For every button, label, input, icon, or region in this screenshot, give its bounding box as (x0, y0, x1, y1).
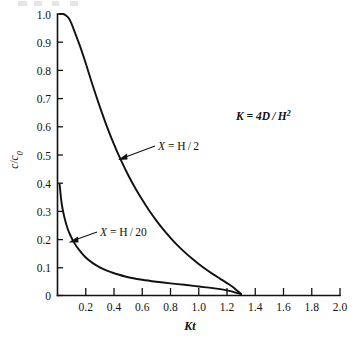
x-tick-label: 0.2 (79, 301, 94, 313)
series-curve-x-h-over-2 (60, 14, 242, 294)
figure-container: 1.0 0.9 0.8 0.7 0.6 0.5 0.4 0.3 0.2 0.1 … (0, 0, 356, 339)
y-tick-label: 0.3 (37, 206, 52, 218)
leader-lower-curve (69, 232, 98, 243)
y-tick-label: 1.0 (37, 9, 52, 21)
curve-label-upper-value: = H / 2 (165, 140, 199, 152)
y-tick-label: 0.7 (37, 93, 52, 105)
curve-label-lower-value: = H / 20 (107, 226, 147, 238)
x-tick-label: 0.4 (107, 301, 122, 313)
curve-label-lower: X = H / 20 (99, 226, 147, 238)
equation-superscript: 2 (286, 109, 291, 118)
x-tick-label: 0.8 (163, 301, 178, 313)
chart-plot: 1.0 0.9 0.8 0.7 0.6 0.5 0.4 0.3 0.2 0.1 … (0, 0, 356, 339)
y-axis-title-group: c/c0 (8, 151, 25, 168)
y-tick-label: 0.1 (37, 262, 52, 274)
x-tick-label: 1.8 (305, 301, 320, 313)
y-tick-label: 0.6 (37, 121, 52, 133)
x-tick-labels: 0.2 0.4 0.6 0.8 1.0 1.2 1.4 1.6 1.8 2.0 (79, 301, 348, 313)
y-tick-label: 0.9 (37, 37, 52, 49)
y-tick-label: 0.8 (37, 65, 52, 77)
x-tick-label: 1.2 (220, 301, 235, 313)
curve-label-upper: X = H / 2 (157, 140, 199, 152)
equation-annotation: K = 4D / H2 (235, 109, 291, 123)
y-tick-labels: 1.0 0.9 0.8 0.7 0.6 0.5 0.4 0.3 0.2 0.1 … (37, 9, 52, 302)
y-tick-label: 0.5 (37, 150, 52, 162)
y-tick-label: 0 (45, 290, 51, 302)
x-tick-label: 1.6 (276, 301, 291, 313)
y-axis-ticks (58, 14, 64, 296)
x-tick-label: 2.0 (333, 301, 348, 313)
x-tick-label: 1.0 (192, 301, 207, 313)
x-tick-label: 0.6 (135, 301, 150, 313)
y-axis-title: c/c0 (8, 151, 25, 168)
x-tick-label: 1.4 (248, 301, 263, 313)
y-tick-label: 0.4 (37, 178, 52, 190)
equation-main: K = 4D / H (235, 110, 288, 122)
x-axis-title: Kt (183, 319, 196, 333)
leader-upper-curve (118, 146, 155, 160)
series-curve-x-h-over-20 (60, 184, 242, 294)
y-tick-label: 0.2 (37, 234, 52, 246)
